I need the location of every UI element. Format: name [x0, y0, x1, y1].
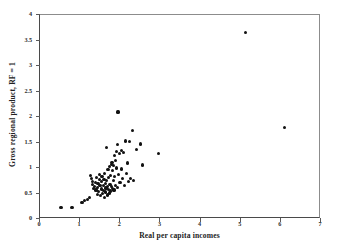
x-axis-tick-label: 4 — [190, 221, 210, 227]
y-axis-tick — [36, 40, 40, 41]
x-axis-tick-label: 0 — [29, 221, 49, 227]
scatter-plot-figure: 00.511.522.533.5401234567 Real per capit… — [0, 0, 341, 251]
y-axis-title: Gross regional product, RF = 1 — [8, 40, 17, 190]
x-axis-tick-label: 1 — [69, 221, 89, 227]
x-axis-tick-label: 7 — [310, 221, 330, 227]
plot-frame — [39, 14, 320, 218]
y-axis-tick — [36, 65, 40, 66]
y-axis-tick — [36, 167, 40, 168]
y-axis-tick — [36, 116, 40, 117]
x-axis-tick-label: 2 — [109, 221, 129, 227]
y-axis-tick — [36, 91, 40, 92]
y-axis-tick — [36, 14, 40, 15]
x-axis-tick-label: 3 — [149, 221, 169, 227]
y-axis-tick — [36, 142, 40, 143]
y-axis-tick-label: 4 — [6, 11, 32, 17]
x-axis-tick-label: 5 — [230, 221, 250, 227]
x-axis-title: Real per capita incomes — [39, 231, 320, 240]
y-axis-tick-label: 0.5 — [6, 190, 32, 196]
x-axis-tick-label: 6 — [270, 221, 290, 227]
y-axis-tick — [36, 193, 40, 194]
